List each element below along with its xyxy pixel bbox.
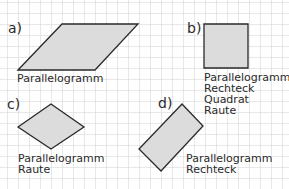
panel-d-name-2: Rechteck: [186, 164, 236, 175]
panel-c-name-2: Raute: [18, 164, 50, 175]
panel-a-label: a): [8, 21, 22, 35]
panel-b-label: b): [187, 21, 201, 35]
panel-b-name-4: Raute: [204, 105, 236, 116]
panel-c-label: c): [7, 97, 20, 111]
panel-a-name-1: Parallelogramm: [17, 73, 104, 84]
panel-d-label: d): [158, 96, 172, 110]
quadrilateral-diagram: a) Parallelogramm b) Parallelogramm Rech…: [0, 0, 289, 189]
shape-b-square: [204, 24, 248, 68]
